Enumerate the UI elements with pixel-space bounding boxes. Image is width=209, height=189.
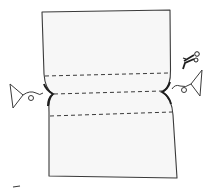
scissors-icon — [183, 52, 199, 69]
right-clip-icon — [172, 70, 202, 96]
left-clip-icon — [10, 84, 43, 108]
diagram-canvas — [0, 0, 209, 189]
stray-mark — [13, 186, 20, 187]
